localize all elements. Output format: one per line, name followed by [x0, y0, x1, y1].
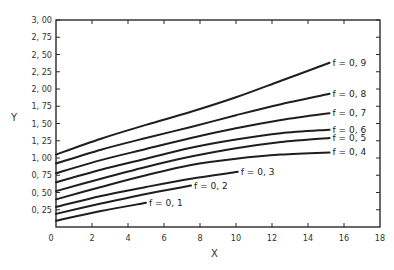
x-axis-title: X [211, 248, 218, 259]
y-tick-label: 1, 75 [31, 101, 52, 111]
x-tick-label: 18 [375, 233, 385, 243]
curve-label: f = 0, 4 [333, 147, 367, 157]
x-tick-label: 2 [89, 233, 94, 243]
y-tick-label: 1, 25 [31, 136, 52, 146]
y-tick-label: 2, 50 [31, 50, 52, 60]
y-tick-label: 3, 00 [31, 15, 52, 25]
curve-label: f = 0, 5 [333, 133, 367, 143]
curve-04 [56, 153, 330, 200]
curve-label: f = 0, 8 [333, 89, 367, 99]
curve-label: f = 0, 7 [333, 108, 367, 118]
curves [56, 63, 330, 221]
curve-08 [56, 94, 330, 164]
x-tick-label: 6 [161, 233, 166, 243]
curve-label: f = 0, 9 [333, 58, 367, 68]
y-tick-label: 2, 75 [31, 32, 52, 42]
x-tick-label: 14 [303, 233, 313, 243]
curve-label: f = 0, 3 [241, 167, 275, 177]
x-tick-label: 8 [197, 233, 202, 243]
curve-label: f = 0, 1 [149, 198, 183, 208]
y-tick-label: 0, 25 [31, 205, 52, 215]
y-tick-label: 2, 00 [31, 84, 52, 94]
y-tick-label: 1, 00 [31, 153, 52, 163]
y-tick-label: 0, 75 [31, 170, 52, 180]
y-tick-label: 1, 50 [31, 119, 52, 129]
curve-labels: f = 0, 9f = 0, 8f = 0, 7f = 0, 6f = 0, 5… [149, 58, 366, 208]
x-tick-label: 12 [267, 233, 277, 243]
x-tick-label: 10 [231, 233, 241, 243]
line-chart: 0, 250, 500, 751, 001, 251, 501, 752, 00… [0, 0, 394, 270]
curve-01 [56, 203, 146, 221]
x-tick-label: 16 [339, 233, 349, 243]
x-tick-label: 4 [125, 233, 130, 243]
y-axis-title: Y [10, 112, 18, 123]
y-tick-label: 2, 25 [31, 67, 52, 77]
y-tick-label: 0, 50 [31, 188, 52, 198]
x-tick-label: 0 [48, 233, 53, 243]
curve-label: f = 0, 2 [194, 181, 228, 191]
